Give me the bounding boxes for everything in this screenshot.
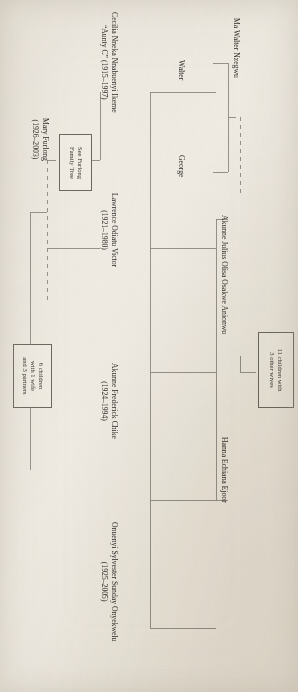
- person-name: Walter: [176, 60, 186, 80]
- note-6-children: 6 children with 1 wife and 3 partners: [13, 344, 52, 408]
- person-dates: (1925–2005): [100, 522, 110, 641]
- person-walter: Walter: [176, 60, 186, 80]
- person-lawrence-odiatu-victor: Lawrence Odiatu Victor (1921–1980): [100, 193, 119, 267]
- person-george: George: [176, 155, 186, 177]
- person-ma-walter-nzegwu: Ma Walter Nzegwu: [231, 18, 241, 78]
- person-cecilia-nneka-nnabuenyi-ikeme: Cecilia Nneka Nnabuenyi Ikeme “Aunty C” …: [100, 12, 119, 113]
- person-name: Ma Walter Nzegwu: [231, 18, 241, 78]
- person-akunne-frederick-chike: Akunne Frederick Chike (1924–1994): [100, 363, 119, 439]
- note-6-children-line-1: 6 children: [37, 357, 45, 394]
- note-6-children-line-2: with 1 wife: [28, 357, 36, 394]
- person-name: Akunne Frederick Chike: [109, 363, 119, 439]
- note-11-children: 11 children with 3 other wives: [258, 332, 294, 408]
- note-see-furlong-line-1: See Furlong: [76, 146, 84, 178]
- note-6-children-line-3: and 3 partners: [20, 357, 28, 394]
- person-dates: “Aunty C” (1915–1997): [100, 12, 110, 113]
- family-tree-page: 11 children with 3 other wives See Furlo…: [0, 0, 298, 692]
- person-name: Cecilia Nneka Nnabuenyi Ikeme: [109, 12, 119, 113]
- note-see-furlong-family-tree[interactable]: See Furlong Family Tree: [59, 134, 92, 191]
- person-name: Mary Furlong: [40, 118, 50, 161]
- person-name: Onuenyi Sylvester Sunday Onyekwelu: [109, 522, 119, 641]
- note-see-furlong-line-2: Family Tree: [67, 146, 75, 178]
- person-mary-furlong: Mary Furlong (1926–2003): [31, 118, 50, 161]
- person-name: Lawrence Odiatu Victor: [109, 193, 119, 267]
- person-dates: (1926–2003): [31, 118, 41, 161]
- person-dates: (1924–1994): [100, 363, 110, 439]
- person-onuenyi-sylvester-sunday-onyekwelu: Onuenyi Sylvester Sunday Onyekwelu (1925…: [100, 522, 119, 641]
- person-hanna-echiana-ejoor: Hanna Echiana Ejoor: [219, 437, 229, 503]
- person-name: George: [176, 155, 186, 177]
- note-11-children-line-2: 3 other wives: [268, 349, 276, 392]
- person-name: Akunne Julius Olisa Osakwe Anionwu: [219, 215, 229, 334]
- person-name: Hanna Echiana Ejoor: [219, 437, 229, 503]
- person-akunne-julius-olisa-osakwe-anionwu: Akunne Julius Olisa Osakwe Anionwu: [219, 215, 229, 334]
- note-11-children-line-1: 11 children with: [276, 349, 284, 392]
- person-dates: (1921–1980): [100, 193, 110, 267]
